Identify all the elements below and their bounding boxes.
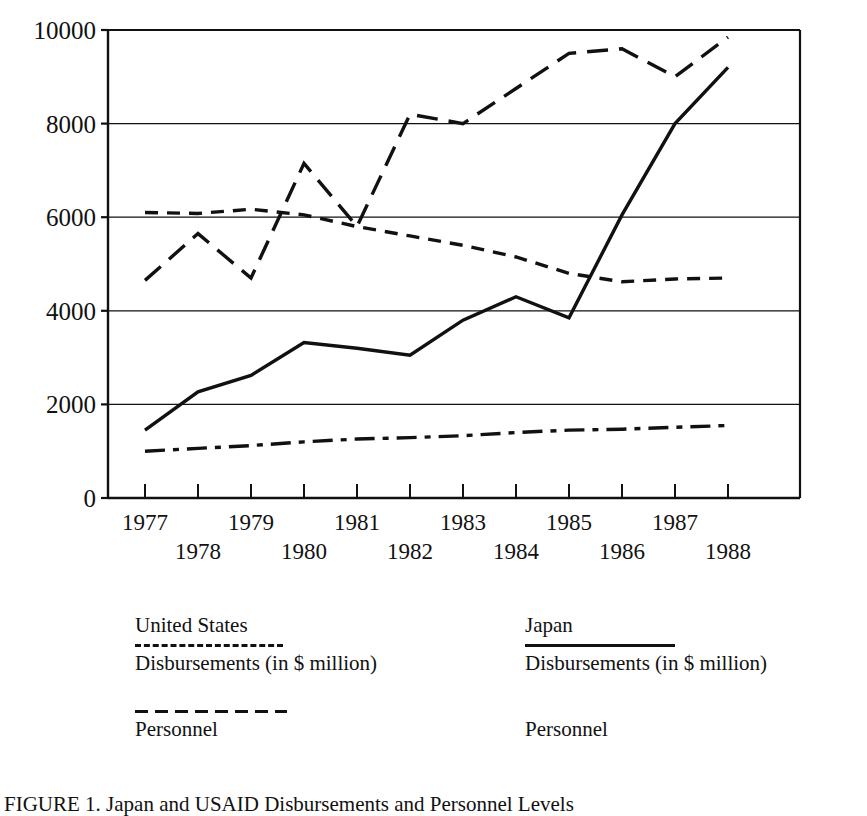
- x-tick-label: 1979: [228, 510, 274, 535]
- x-tick-label: 1982: [387, 539, 433, 560]
- legend-label-us-personnel: Personnel: [135, 717, 218, 741]
- y-tick-label: 2000: [46, 391, 96, 418]
- gridlines-group: [108, 30, 800, 404]
- x-tick-label: 1978: [175, 539, 221, 560]
- x-tick-label: 1980: [281, 539, 327, 560]
- x-tick-label: 1988: [705, 539, 751, 560]
- legend-label-us-disbursements: Disbursements (in $ million): [135, 651, 377, 675]
- y-tick-label: 4000: [46, 298, 96, 325]
- x-tick-label: 1981: [334, 510, 380, 535]
- legend-swatch-solid-line-icon: [525, 644, 675, 647]
- line-chart-svg: 0200040006000800010000 19771978197919801…: [0, 0, 867, 560]
- legend-spacer: [135, 676, 377, 710]
- y-tick-label: 10000: [34, 17, 97, 44]
- legend-column-united-states: United States Disbursements (in $ millio…: [135, 612, 377, 742]
- figure-caption: FIGURE 1. Japan and USAID Disbursements …: [4, 792, 864, 816]
- series-line-united-states-personnel: [145, 425, 728, 451]
- series-line-japan-disbursements: [145, 37, 728, 280]
- legend-header-united-states: United States: [135, 612, 377, 638]
- x-tick-label: 1987: [652, 510, 698, 535]
- y-tick-label: 0: [84, 485, 97, 512]
- x-tick-label: 1985: [546, 510, 592, 535]
- legend-swatch-blank-icon: [525, 710, 675, 713]
- x-tick-label: 1984: [493, 539, 540, 560]
- x-tick-label: 1986: [599, 539, 645, 560]
- legend-header-japan: Japan: [525, 612, 767, 638]
- legend-column-japan: Japan Disbursements (in $ million) Perso…: [525, 612, 767, 742]
- y-tick-labels: 0200040006000800010000: [34, 17, 97, 512]
- legend-label-japan-personnel: Personnel: [525, 717, 608, 741]
- y-tick-label: 8000: [46, 111, 96, 138]
- legend-entry-japan-disbursements: Disbursements (in $ million): [525, 644, 767, 676]
- legend-entry-us-personnel: Personnel: [135, 710, 377, 742]
- x-tick-label: 1983: [440, 510, 486, 535]
- legend-entry-us-disbursements: Disbursements (in $ million): [135, 644, 377, 676]
- y-tick-label: 6000: [46, 204, 96, 231]
- legend-swatch-short-dash-icon: [135, 644, 283, 647]
- legend-spacer: [525, 676, 767, 710]
- x-tick-labels: 1977197819791980198119821983198419851986…: [122, 510, 751, 560]
- series-line-japan-personnel: [145, 67, 728, 430]
- chart-legend: United States Disbursements (in $ millio…: [0, 612, 867, 797]
- data-series-group: [145, 37, 728, 451]
- legend-entry-japan-personnel: Personnel: [525, 710, 767, 742]
- x-tick-marks: [145, 484, 728, 498]
- legend-label-japan-disbursements: Disbursements (in $ million): [525, 651, 767, 675]
- x-tick-label: 1977: [122, 510, 168, 535]
- legend-swatch-long-dash-icon: [135, 710, 287, 713]
- series-line-united-states-disbursements: [145, 209, 728, 282]
- chart-plot-area: 0200040006000800010000 19771978197919801…: [0, 0, 867, 560]
